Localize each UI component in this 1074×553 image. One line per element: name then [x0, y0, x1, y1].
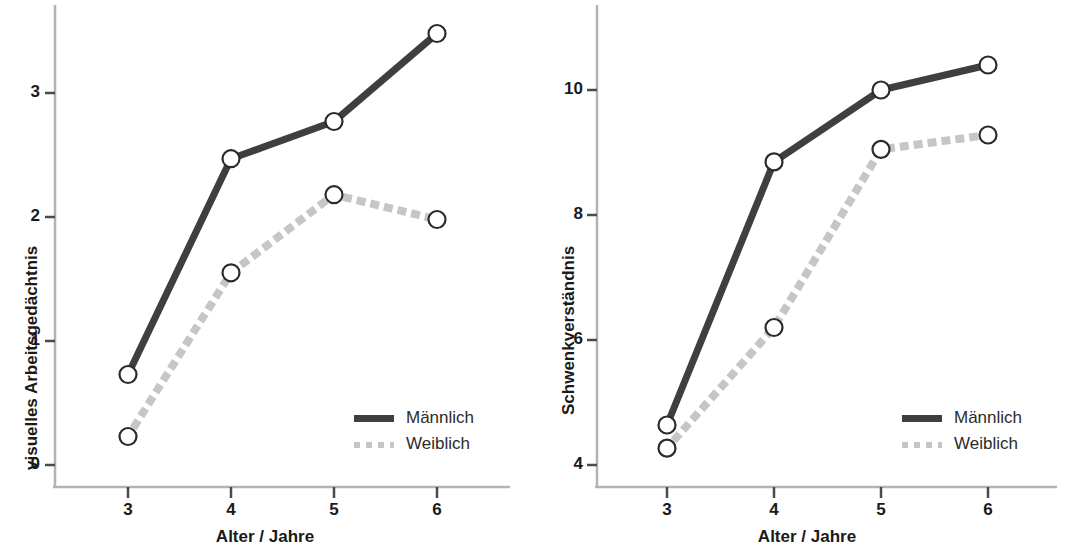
- legend-item-female-left[interactable]: Weiblich: [352, 431, 474, 457]
- data-point-marker[interactable]: [223, 150, 240, 167]
- x-tick-label-right-3: 3: [647, 500, 687, 520]
- chart-panel-right: Schwenkverständnis Alter / Jahre 10 8 6 …: [537, 0, 1074, 553]
- x-tick-label-left-5: 5: [314, 500, 354, 520]
- series-line-male-right: [667, 65, 988, 425]
- data-point-marker[interactable]: [766, 153, 783, 170]
- data-point-marker[interactable]: [659, 440, 676, 457]
- y-tick-label-right-8: 8: [539, 204, 583, 224]
- x-axis-title-right: Alter / Jahre: [697, 527, 917, 547]
- data-point-marker[interactable]: [326, 186, 343, 203]
- x-tick-label-left-6: 6: [417, 500, 457, 520]
- legend-label-male-left: Männlich: [406, 408, 474, 428]
- data-point-marker[interactable]: [120, 428, 137, 445]
- data-point-marker[interactable]: [429, 211, 446, 228]
- legend-item-male-left[interactable]: Männlich: [352, 405, 474, 431]
- x-tick-label-left-3: 3: [108, 500, 148, 520]
- data-point-marker[interactable]: [980, 127, 997, 144]
- legend-label-female-left: Weiblich: [406, 434, 470, 454]
- legend-key-dotted-line-icon: [352, 435, 396, 453]
- legend-left: Männlich Weiblich: [352, 405, 474, 457]
- legend-label-male-right: Männlich: [954, 408, 1022, 428]
- x-tick-label-right-5: 5: [861, 500, 901, 520]
- series-line-male-left: [128, 33, 437, 374]
- y-tick-label-left-1: 1: [8, 330, 40, 350]
- data-point-marker[interactable]: [980, 57, 997, 74]
- plot-area-right: [537, 0, 1074, 553]
- x-tick-label-right-6: 6: [968, 500, 1008, 520]
- y-tick-label-right-6: 6: [539, 329, 583, 349]
- data-point-marker[interactable]: [659, 417, 676, 434]
- data-point-marker[interactable]: [223, 264, 240, 281]
- series-line-female-right: [667, 135, 988, 448]
- plot-area-left: [0, 0, 537, 553]
- y-tick-label-left-3: 3: [8, 82, 40, 102]
- figure-two-panel-line-charts: visuelles Arbeitsgedächtnis Alter / Jahr…: [0, 0, 1074, 553]
- x-tick-label-right-4: 4: [754, 500, 794, 520]
- chart-panel-left: visuelles Arbeitsgedächtnis Alter / Jahr…: [0, 0, 537, 553]
- data-point-marker[interactable]: [766, 319, 783, 336]
- data-point-marker[interactable]: [873, 82, 890, 99]
- legend-key-solid-line-icon: [900, 409, 944, 427]
- data-point-marker[interactable]: [429, 25, 446, 42]
- legend-key-solid-line-icon: [352, 409, 396, 427]
- y-tick-label-right-4: 4: [539, 454, 583, 474]
- x-axis-title-left: Alter / Jahre: [155, 527, 375, 547]
- series-line-female-left: [128, 195, 437, 437]
- y-tick-label-right-10: 10: [539, 79, 583, 99]
- legend-item-female-right[interactable]: Weiblich: [900, 431, 1022, 457]
- y-axis-title-left: visuelles Arbeitsgedächtnis: [22, 246, 42, 470]
- data-point-marker[interactable]: [326, 113, 343, 130]
- legend-key-dotted-line-icon: [900, 435, 944, 453]
- data-point-marker[interactable]: [873, 141, 890, 158]
- data-point-marker[interactable]: [120, 366, 137, 383]
- legend-right: Männlich Weiblich: [900, 405, 1022, 457]
- legend-item-male-right[interactable]: Männlich: [900, 405, 1022, 431]
- y-tick-label-left-0: 0: [8, 454, 40, 474]
- y-tick-label-left-2: 2: [8, 206, 40, 226]
- x-tick-label-left-4: 4: [211, 500, 251, 520]
- legend-label-female-right: Weiblich: [954, 434, 1018, 454]
